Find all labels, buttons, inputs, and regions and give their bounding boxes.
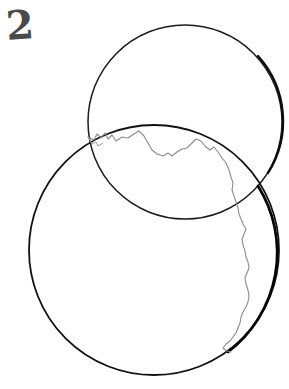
figure-number-label: 2 xyxy=(1,1,38,49)
page-background xyxy=(0,0,289,389)
figure-drawing xyxy=(0,0,289,389)
figure-page: 2 xyxy=(0,0,289,389)
